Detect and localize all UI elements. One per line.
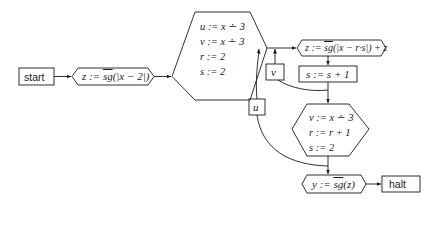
inc-s-node: s := s + 1 (306, 69, 350, 80)
init-z-node: z := sg(|x − 2|) (82, 71, 149, 82)
start-node: start (24, 72, 44, 83)
update-z-node: z := sg(|x − r·s|) + z (305, 43, 387, 53)
u-test-node: u (253, 102, 259, 113)
output-y-node: y := sg(z) (312, 179, 355, 190)
halt-node: halt (389, 179, 406, 190)
v-test-node: v (271, 67, 276, 78)
